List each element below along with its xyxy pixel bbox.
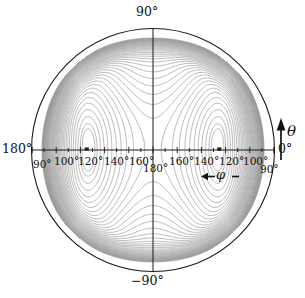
angular-label-left: 180° [2,143,32,156]
radial-label-left-2: 120° [78,156,103,167]
polar-contour-figure: 90° −90° 180° 0° 90° 100° 120° 140° 160°… [0,0,305,298]
minimum-marker-right [217,147,221,150]
phi-axis-label: φ [216,168,225,181]
radial-label-right-2: 120° [219,156,244,167]
radial-label-left-1: 100° [54,156,79,167]
angular-label-bottom: −90° [131,275,164,288]
radial-label-right-0: 160° [169,156,194,167]
axis-ticks [32,147,274,154]
theta-axis-label: θ [287,124,296,139]
radial-label-center: 180° [143,163,168,174]
angular-label-right: 0° [278,143,292,156]
radial-label-left-3: 140° [104,156,129,167]
radial-label-left-0: 90° [33,159,52,170]
radial-label-right-1: 140° [194,156,219,167]
angular-label-top: 90° [136,6,158,19]
plot-canvas [0,0,305,298]
minimum-marker-left [85,147,89,150]
radial-label-right-4: 90° [260,164,279,175]
